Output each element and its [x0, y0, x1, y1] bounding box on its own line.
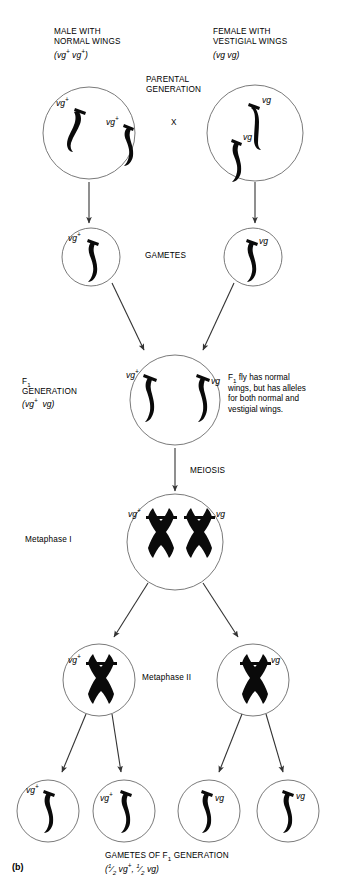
allele-f1-gamete-4: vg [296, 791, 305, 801]
male-parent-title: MALE WITHNORMAL WINGS [54, 27, 121, 48]
female-parent-title: FEMALE WITHVESTIGIAL WINGS [213, 27, 287, 48]
arrow-mii-left-to-gamete-1 [62, 714, 86, 772]
chromosome-gamete-female [246, 239, 258, 282]
allele-female-a: vg [262, 95, 271, 105]
allele-mi-vestigial: vg [216, 509, 225, 519]
arrow-female-gamete-to-f1 [203, 283, 234, 350]
allele-mi-normal: vg+ [128, 509, 141, 519]
allele-f1-gamete-1: vg+ [26, 785, 39, 795]
bottom-caption: GAMETES OF F1 GENERATION [105, 851, 229, 861]
arrow-mii-left-to-gamete-2 [112, 714, 121, 772]
allele-f1-normal: vg+ [126, 370, 139, 380]
chromosome-f1-gamete-1 [43, 790, 55, 833]
arrow-metaphase-i-to-ii-left [114, 583, 148, 637]
allele-f1-gamete-2: vg+ [100, 793, 113, 803]
female-parent-genotype: (vg vg) [213, 50, 239, 60]
chromosome-metaphase-i-normal [146, 508, 177, 558]
chromosome-metaphase-ii-right [240, 654, 271, 704]
allele-mii-left: vg+ [68, 655, 81, 665]
cross-symbol: X [171, 118, 177, 128]
allele-gamete-female: vg [259, 236, 268, 246]
f1-zygote-cell-outline [130, 355, 220, 445]
chromosome-male-a [67, 108, 86, 152]
meiosis-label: MEIOSIS [190, 466, 225, 476]
f1-explanatory-note: F1 fly has normalwings, but has allelesf… [228, 373, 340, 415]
meiosis-diagram: MALE WITHNORMAL WINGS (vg+ vg+) FEMALE W… [0, 0, 342, 888]
allele-mii-right: vg [271, 655, 280, 665]
diagram-canvas [0, 0, 342, 888]
f1-gamete-2-outline [93, 780, 155, 842]
allele-male-b: vg+ [106, 117, 119, 127]
chromosome-f1-vestigial [196, 374, 210, 422]
chromosome-gamete-male [87, 239, 99, 282]
gametes-label: GAMETES [145, 251, 186, 261]
chromosome-metaphase-i-vestigial [184, 508, 215, 558]
metaphase-ii-label: Metaphase II [142, 673, 191, 683]
arrow-male-gamete-to-f1 [112, 283, 144, 350]
chromosome-f1-gamete-4 [282, 790, 294, 833]
chromosome-f1-gamete-2 [120, 790, 132, 833]
metaphase-i-label: Metaphase I [25, 535, 72, 545]
arrow-mii-right-to-gamete-3 [219, 714, 242, 772]
chromosome-female-a [248, 103, 261, 150]
chromosome-metaphase-ii-left [86, 654, 117, 704]
male-parent-genotype: (vg+ vg+) [54, 50, 88, 60]
allele-male-a: vg+ [56, 98, 69, 108]
arrow-metaphase-i-to-ii-right [203, 583, 238, 637]
chromosome-f1-gamete-3 [201, 790, 213, 833]
f1-generation-genotype: (vg+ vg) [22, 399, 54, 409]
allele-f1-vestigial: vg [211, 376, 220, 386]
chromosome-male-b [123, 124, 134, 166]
allele-female-b: vg [243, 132, 252, 142]
f1-generation-label: F1GENERATION [22, 377, 77, 398]
allele-f1-gamete-3: vg [215, 793, 224, 803]
panel-label: (b) [12, 862, 24, 872]
allele-gamete-male: vg+ [68, 233, 81, 243]
parental-generation-label: PARENTALGENERATION [146, 75, 201, 96]
bottom-caption-ratio: (1⁄2 vg+, 1⁄2 vg) [105, 864, 159, 874]
arrow-mii-right-to-gamete-4 [266, 714, 283, 772]
chromosome-f1-normal [143, 374, 157, 422]
